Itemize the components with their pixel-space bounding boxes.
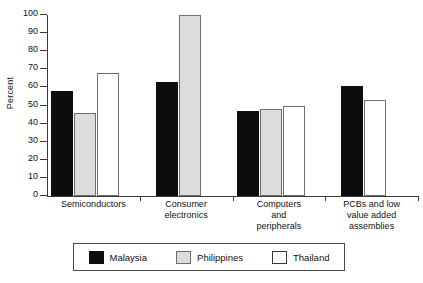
legend-swatch-malaysia — [89, 251, 104, 264]
x-axis-label-line: Semiconductors — [47, 199, 140, 210]
y-axis-tick: 10 — [40, 177, 47, 178]
plot-area: 0102030405060708090100 — [47, 15, 418, 196]
legend-item-philippines[interactable]: Philippines — [176, 251, 243, 264]
y-axis-tick: 60 — [40, 86, 47, 87]
y-axis-tick-label: 20 — [28, 153, 38, 164]
bar-philippines-1 — [179, 15, 201, 196]
x-axis-label-2: Computersandperipherals — [233, 199, 326, 232]
bar-thailand-3 — [364, 100, 386, 196]
y-axis-tick: 80 — [40, 50, 47, 51]
y-axis-tick: 40 — [40, 123, 47, 124]
legend-label-thailand: Thailand — [293, 252, 329, 263]
x-axis-label-1: Consumerelectronics — [140, 199, 233, 221]
legend-item-thailand[interactable]: Thailand — [272, 251, 329, 264]
bar-thailand-2 — [283, 106, 305, 197]
bar-malaysia-3 — [341, 86, 363, 196]
y-axis-tick: 50 — [40, 105, 47, 106]
x-axis-label-0: Semiconductors — [47, 199, 140, 210]
x-axis-labels: SemiconductorsConsumerelectronicsCompute… — [47, 199, 418, 243]
y-axis-line — [47, 15, 48, 197]
y-axis-tick-label: 40 — [28, 117, 38, 128]
y-axis-tick-label: 30 — [28, 135, 38, 146]
x-axis-label-line: Consumer — [140, 199, 233, 210]
y-axis-tick-label: 10 — [28, 171, 38, 182]
legend-item-malaysia[interactable]: Malaysia — [89, 251, 148, 264]
bar-malaysia-0 — [51, 91, 73, 196]
y-axis-tick-label: 90 — [28, 26, 38, 37]
legend-swatch-philippines — [176, 251, 191, 264]
y-axis-tick-label: 80 — [28, 44, 38, 55]
y-axis-tick: 90 — [40, 32, 47, 33]
bar-thailand-0 — [97, 73, 119, 196]
legend-label-philippines: Philippines — [197, 252, 243, 263]
y-axis-tick-label: 60 — [28, 80, 38, 91]
x-axis-label-3: PCBs and lowvalue addedassemblies — [325, 199, 418, 232]
y-axis-tick-label: 70 — [28, 62, 38, 73]
bar-philippines-2 — [260, 109, 282, 196]
y-axis-tick: 100 — [40, 14, 47, 15]
y-axis-tick: 20 — [40, 159, 47, 160]
y-axis-tick-label: 0 — [33, 189, 38, 200]
x-axis-label-line: PCBs and low — [325, 199, 418, 210]
y-axis-tick-label: 50 — [28, 99, 38, 110]
x-axis-label-line: peripherals — [233, 221, 326, 232]
y-axis-tick: 70 — [40, 68, 47, 69]
bar-malaysia-2 — [237, 111, 259, 196]
legend-label-malaysia: Malaysia — [110, 252, 148, 263]
x-axis-label-line: assemblies — [325, 221, 418, 232]
legend-swatch-thailand — [272, 251, 287, 264]
x-axis-label-line: Computers — [233, 199, 326, 210]
y-axis-tick: 0 — [40, 195, 47, 196]
chart-legend: MalaysiaPhilippinesThailand — [73, 243, 345, 271]
bar-chart: Percent 0102030405060708090100 Semicondu… — [0, 0, 423, 283]
x-axis-label-line: and — [233, 210, 326, 221]
x-axis-label-line: electronics — [140, 210, 233, 221]
x-axis-tick — [418, 196, 419, 201]
x-axis-label-line: value added — [325, 210, 418, 221]
y-axis-tick: 30 — [40, 141, 47, 142]
bar-philippines-0 — [74, 113, 96, 196]
bar-malaysia-1 — [156, 82, 178, 196]
y-axis-tick-label: 100 — [23, 8, 38, 19]
y-axis-title: Percent — [5, 63, 15, 123]
